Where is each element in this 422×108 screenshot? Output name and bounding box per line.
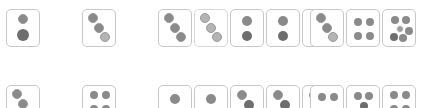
card-three-diagonal[interactable] (158, 9, 192, 47)
pip-icon (365, 92, 373, 100)
pip-icon (88, 13, 98, 23)
pip-icon (206, 94, 216, 104)
card-six-grid[interactable] (382, 9, 416, 47)
pip-icon (200, 13, 210, 23)
pip-icon (330, 93, 338, 101)
bottom-row-group-1 (6, 85, 40, 108)
pip-icon (278, 31, 288, 41)
card-two-vertical[interactable] (230, 9, 264, 47)
pip-icon (402, 91, 410, 99)
pip-icon (391, 16, 399, 24)
pip-icon (390, 91, 398, 99)
pip-icon (90, 105, 98, 108)
bottom-row (0, 85, 422, 108)
pip-icon (328, 32, 338, 42)
pip-icon (366, 32, 374, 40)
card-three-diagonal-light[interactable] (194, 9, 228, 47)
pip-icon (242, 16, 252, 26)
pip-icon (17, 29, 29, 41)
card-two-vertical[interactable] (266, 9, 300, 47)
top-row (0, 9, 422, 49)
pip-icon (405, 27, 413, 35)
top-row-group-2 (82, 9, 116, 49)
card-three-triangle[interactable] (346, 85, 380, 108)
pip-icon (176, 32, 186, 42)
pip-icon (237, 90, 247, 100)
pip-icon (90, 91, 98, 99)
card-four-square[interactable] (346, 9, 380, 47)
card-one-center[interactable] (158, 85, 192, 108)
bottom-row-group-2 (82, 85, 116, 108)
bottom-row-group-4 (310, 85, 416, 108)
pip-icon (102, 91, 110, 99)
pip-icon (164, 13, 174, 23)
pip-icon (212, 32, 222, 42)
pip-icon (18, 99, 28, 108)
pip-icon (360, 102, 368, 108)
pip-icon (354, 92, 362, 100)
pip-icon (244, 100, 254, 108)
pip-icon (399, 34, 407, 42)
pip-icon (396, 25, 404, 33)
pip-icon (402, 105, 410, 108)
pip-icon (242, 31, 252, 41)
pip-icon (278, 16, 288, 26)
card-three-diagonal[interactable] (310, 9, 344, 47)
card-two-horizontal[interactable] (310, 85, 344, 108)
pip-icon (354, 18, 362, 26)
pip-icon (390, 105, 398, 108)
pip-icon (273, 90, 283, 100)
card-two-vertical[interactable] (6, 9, 40, 47)
card-four-square[interactable] (382, 85, 416, 108)
pip-icon (280, 100, 290, 108)
pip-icon (390, 33, 398, 41)
top-row-group-1 (6, 9, 40, 49)
pip-icon (18, 14, 28, 24)
top-row-group-4 (310, 9, 416, 49)
pip-icon (366, 18, 374, 26)
card-three-diagonal[interactable] (82, 9, 116, 47)
card-two-diagonal[interactable] (266, 85, 300, 108)
pip-icon (170, 94, 180, 104)
dice-card-canvas (0, 0, 422, 108)
card-one-center[interactable] (194, 85, 228, 108)
pip-icon (102, 105, 110, 108)
pip-icon (402, 16, 410, 24)
pip-icon (316, 13, 326, 23)
pip-icon (100, 32, 110, 42)
pip-icon (354, 32, 362, 40)
card-three-diagonal[interactable] (6, 85, 40, 108)
pip-icon (318, 93, 326, 101)
card-four-square[interactable] (82, 85, 116, 108)
card-two-diagonal[interactable] (230, 85, 264, 108)
pip-icon (12, 89, 22, 99)
